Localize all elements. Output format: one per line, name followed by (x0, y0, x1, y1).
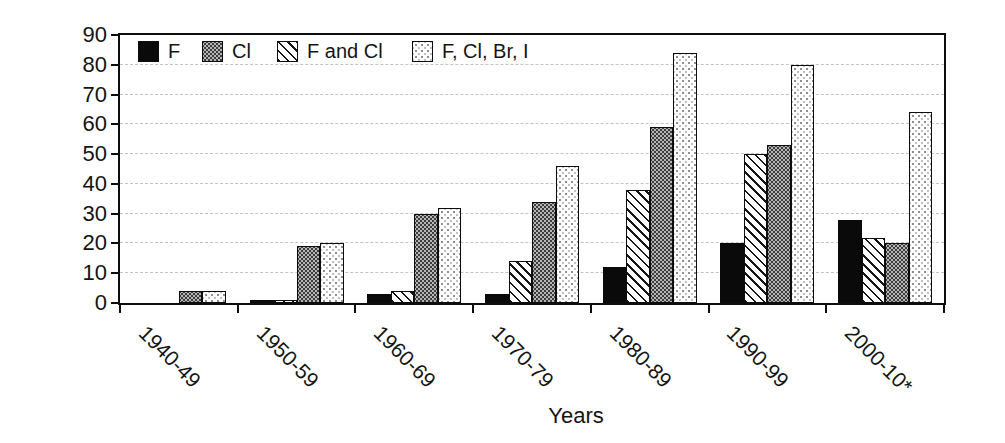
y-tick-10 (111, 272, 120, 274)
gridline-50 (120, 153, 944, 154)
x-tick-1 (237, 305, 239, 313)
x-tick-5 (708, 305, 710, 313)
legend-swatch-solid-black (138, 41, 159, 62)
y-tick-60 (111, 123, 120, 125)
bar-FClBrI-1950-59 (320, 243, 344, 303)
bar-FClBrI-2000-10* (909, 112, 933, 303)
x-tick-2 (354, 305, 356, 313)
bar-Cl-1940-49 (179, 291, 203, 303)
legend-swatch-gray-halftone (202, 41, 223, 62)
y-tick-label-20: 20 (83, 232, 107, 254)
x-tick-7 (943, 305, 945, 313)
legend: FClF and ClF, Cl, Br, I (120, 40, 944, 64)
y-tick-label-40: 40 (83, 173, 107, 195)
x-tick-label-2000-10*: 2000-10* (840, 321, 917, 398)
y-tick-label-50: 50 (83, 143, 107, 165)
gridline-40 (120, 183, 944, 184)
plot-area: FClF and ClF, Cl, Br, I 0102030405060708… (118, 33, 946, 305)
gridline-60 (120, 123, 944, 124)
bar-FandCl-1950-59 (273, 300, 297, 303)
x-tick-label-1940-49: 1940-49 (134, 321, 205, 392)
x-axis-title: Years (162, 403, 990, 429)
x-tick-label-1990-99: 1990-99 (722, 321, 793, 392)
bar-F-1970-79 (485, 294, 509, 303)
bar-Cl-1960-69 (414, 214, 438, 303)
x-tick-6 (825, 305, 827, 313)
bar-Cl-2000-10* (885, 243, 909, 303)
bar-Cl-1990-99 (767, 145, 791, 303)
y-tick-50 (111, 153, 120, 155)
bar-F-1980-89 (603, 267, 627, 303)
y-tick-90 (111, 34, 120, 36)
bar-FandCl-1990-99 (744, 154, 768, 303)
bar-F-1990-99 (720, 243, 744, 303)
y-tick-label-70: 70 (83, 84, 107, 106)
legend-item-FandCl: F and Cl (277, 40, 383, 62)
gridline-70 (120, 94, 944, 95)
x-tick-label-1970-79: 1970-79 (487, 321, 558, 392)
x-tick-3 (472, 305, 474, 313)
y-tick-0 (111, 302, 120, 304)
x-tick-4 (590, 305, 592, 313)
legend-swatch-light-dots (412, 41, 433, 62)
bar-FClBrI-1940-49 (202, 291, 226, 303)
bar-F-1950-59 (250, 300, 274, 303)
bar-F-1960-69 (367, 294, 391, 303)
y-tick-label-90: 90 (83, 24, 107, 46)
y-tick-40 (111, 183, 120, 185)
y-tick-20 (111, 242, 120, 244)
bar-chart-figure: FClF and ClF, Cl, Br, I 0102030405060708… (0, 0, 1005, 443)
y-tick-label-30: 30 (83, 203, 107, 225)
x-tick-label-1980-89: 1980-89 (605, 321, 676, 392)
bar-FClBrI-1960-69 (438, 208, 462, 303)
legend-item-FClBrI: F, Cl, Br, I (412, 40, 529, 62)
x-tick-label-1950-59: 1950-59 (252, 321, 323, 392)
x-tick-label-1960-69: 1960-69 (369, 321, 440, 392)
legend-swatch-diagonal-hatch (277, 41, 298, 62)
bar-FClBrI-1980-89 (673, 53, 697, 303)
bar-FandCl-1980-89 (626, 190, 650, 303)
bar-FandCl-1960-69 (391, 291, 415, 303)
y-tick-label-60: 60 (83, 113, 107, 135)
bar-F-2000-10* (838, 220, 862, 303)
bar-Cl-1980-89 (650, 127, 674, 303)
bar-FandCl-2000-10* (862, 238, 886, 304)
bar-FandCl-1970-79 (509, 261, 533, 303)
y-tick-label-0: 0 (95, 292, 107, 314)
y-tick-30 (111, 213, 120, 215)
legend-label: F (168, 40, 180, 62)
x-tick-0 (119, 305, 121, 313)
y-tick-70 (111, 94, 120, 96)
bar-Cl-1950-59 (297, 246, 321, 303)
legend-label: F, Cl, Br, I (442, 40, 529, 62)
legend-item-Cl: Cl (202, 40, 251, 62)
legend-label: Cl (232, 40, 251, 62)
bar-FClBrI-1970-79 (556, 166, 580, 303)
legend-label: F and Cl (307, 40, 383, 62)
bar-Cl-1970-79 (532, 202, 556, 303)
legend-item-F: F (138, 40, 180, 62)
y-tick-label-10: 10 (83, 262, 107, 284)
y-tick-label-80: 80 (83, 54, 107, 76)
y-tick-80 (111, 64, 120, 66)
bar-FClBrI-1990-99 (791, 65, 815, 303)
